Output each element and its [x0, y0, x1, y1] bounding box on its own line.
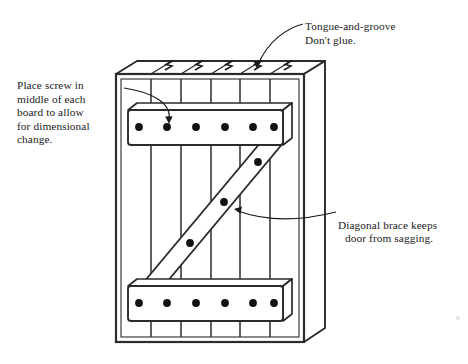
bottom-batten-front-face: [128, 286, 283, 321]
annotation-brace-line-2: door from sagging.: [338, 232, 464, 246]
annotation-brace-line-1: Diagonal brace keeps: [338, 219, 437, 231]
top-batten: [128, 103, 292, 145]
bottom-batten-top-face: [128, 279, 292, 286]
annotation-brace-note: Diagonal brace keeps door from sagging.: [338, 205, 464, 259]
screw-head: [270, 123, 278, 131]
screw-head: [221, 299, 229, 307]
screw-head: [249, 299, 257, 307]
screw-head: [270, 299, 278, 307]
screw-head: [135, 299, 143, 307]
bottom-batten-end-face: [283, 279, 292, 321]
door-illustration: [0, 0, 468, 364]
page-edge-artifact: s: [456, 312, 466, 323]
top-batten-end-face: [283, 103, 292, 145]
screw-head: [163, 299, 171, 307]
screw-head: [254, 158, 262, 166]
door-right-edge-face: [304, 61, 325, 342]
screw-head: [220, 198, 228, 206]
annotation-screw-note: Place screw in middle of each board to a…: [17, 79, 125, 147]
screw-head: [135, 123, 143, 131]
annotation-tongue-note: Tongue-and-groove Don't glue.: [305, 20, 455, 47]
screw-head: [221, 123, 229, 131]
bottom-batten: [128, 279, 292, 321]
figure-page: Place screw in middle of each board to a…: [0, 0, 468, 364]
screw-head: [163, 123, 171, 131]
screw-head: [186, 239, 194, 247]
top-batten-front-face: [128, 110, 283, 145]
screw-head: [249, 123, 257, 131]
screw-head: [192, 299, 200, 307]
screw-head: [192, 123, 200, 131]
top-batten-top-face: [128, 103, 292, 110]
